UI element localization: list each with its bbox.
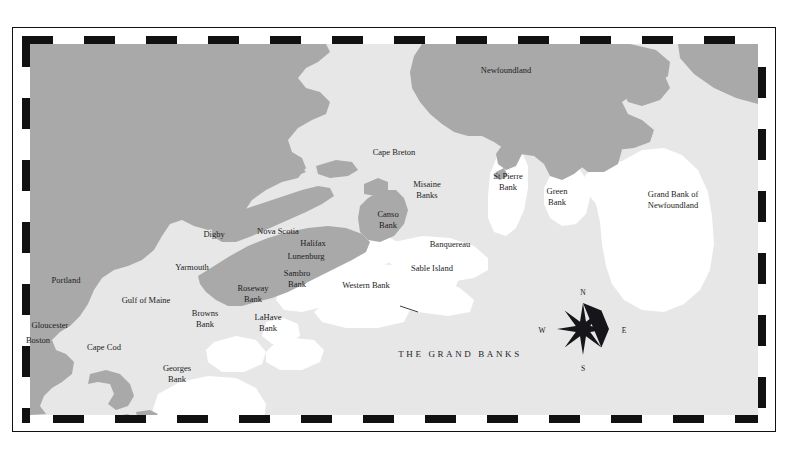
map-label-line: Halifax [300,238,326,249]
map-label-boston: Boston [26,335,50,346]
land-island-marthas [116,414,134,415]
map-label-line: Bank [284,278,310,289]
map-label-sable-island: Sable Island [411,263,453,274]
map-label-line: Bank [192,318,218,329]
map-label-portland: Portland [52,275,81,286]
map-label-misaine-banks: MisaineBanks [413,179,440,200]
map-label-st-pierre-bank: St PierreBank [493,171,523,192]
grand-banks-map-figure: NESW NewfoundlandCape BretonSt PierreBan… [0,0,788,459]
map-label-cape-breton: Cape Breton [373,147,416,158]
map-label-line: Canso [377,209,398,220]
map-label-line: St Pierre [493,171,523,182]
map-label-gulf-of-maine: Gulf of Maine [122,295,171,306]
map-title: THE GRAND BANKS [398,349,522,359]
map-label-line: Roseway [237,283,268,294]
compass-direction-n: N [580,288,585,297]
map-label-cape-cod: Cape Cod [87,342,121,353]
land-prince-edward-island [316,160,358,178]
map-label-nova-scotia: Nova Scotia [257,226,299,237]
map-label-line: Yarmouth [175,262,209,273]
map-label-roseway-bank: RosewayBank [237,283,268,304]
map-label-line: Sable Island [411,263,453,274]
map-label-lahave-bank: LaHaveBank [255,312,282,333]
map-border-band-bottom [22,415,766,423]
map-label-line: Georges [163,363,191,374]
map-label-halifax: Halifax [300,238,326,249]
map-label-yarmouth: Yarmouth [175,262,209,273]
map-label-line: Bank [377,219,398,230]
map-label-line: Nova Scotia [257,226,299,237]
map-label-line: Boston [26,335,50,346]
map-label-line: Cape Cod [87,342,121,353]
map-label-line: Sambro [284,268,310,279]
land-labrador-edge [678,44,758,104]
map-label-lunenburg: Lunenburg [287,251,324,262]
map-label-line: Bank [163,373,191,384]
compass-rose [553,299,613,359]
map-label-line: Misaine [413,179,440,190]
map-label-line: Bank [237,293,268,304]
compass-direction-w: W [538,326,545,335]
map-label-line: Cape Breton [373,147,416,158]
map-canvas-sea: NESW [30,44,758,415]
map-label-line: Western Bank [342,280,390,291]
map-label-line: Bank [493,181,523,192]
map-label-newfoundland: Newfoundland [481,65,532,76]
map-label-line: Digby [203,229,224,240]
map-label-line: Bank [547,196,568,207]
map-label-digby: Digby [203,229,224,240]
map-border-band-left [22,36,30,423]
map-label-line: Portland [52,275,81,286]
map-label-line: Green [547,186,568,197]
map-border-band-top [22,36,766,44]
map-label-gloucester: Gloucester [32,320,69,331]
map-label-banquereau: Banquereau [430,239,471,250]
land-cape-cod [88,370,134,410]
bank-grand-bank [582,148,714,312]
map-label-line: Browns [192,308,218,319]
map-label-line: Grand Bank of [648,189,699,200]
map-label-sambro-bank: SambroBank [284,268,310,289]
map-label-green-bank: GreenBank [547,186,568,207]
map-label-line: Gulf of Maine [122,295,171,306]
map-label-line: Newfoundland [481,65,532,76]
map-label-line: Newfoundland [648,199,699,210]
map-label-canso-bank: CansoBank [377,209,398,230]
map-border-band-right [758,36,766,423]
map-label-grand-bank-newfoundland: Grand Bank ofNewfoundland [648,189,699,210]
map-label-browns-bank: BrownsBank [192,308,218,329]
map-label-line: Gloucester [32,320,69,331]
compass-direction-e: E [622,326,627,335]
map-label-line: LaHave [255,312,282,323]
map-label-line: Lunenburg [287,251,324,262]
map-label-line: Bank [255,322,282,333]
compass-direction-s: S [581,364,585,373]
bank-browns [206,336,266,372]
map-label-georges-bank: GeorgesBank [163,363,191,384]
map-label-western-bank: Western Bank [342,280,390,291]
map-label-line: Banquereau [430,239,471,250]
map-label-line: Banks [413,189,440,200]
